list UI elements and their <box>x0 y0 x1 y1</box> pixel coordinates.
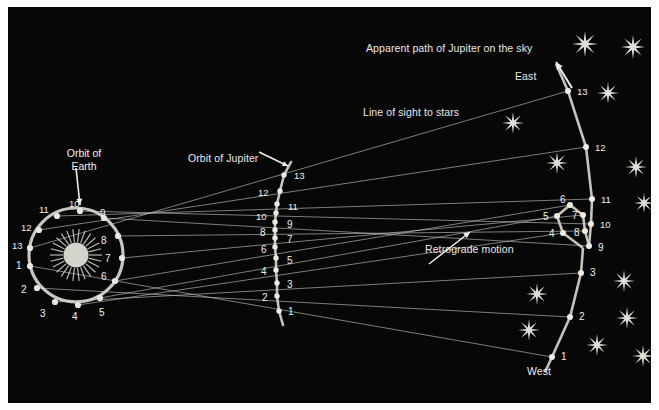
apparent-path-dot <box>580 212 586 218</box>
earth_orbit-number: 5 <box>99 308 105 318</box>
sun-ray <box>89 258 102 261</box>
jupiter-position-dot <box>277 188 282 193</box>
jupiter_orbit-number: 10 <box>256 212 267 222</box>
earth_orbit-number: 4 <box>72 312 78 322</box>
sight-line <box>37 288 570 317</box>
jupiter-position-dot <box>276 308 281 313</box>
orbit-of-earth-label: Orbit of Earth <box>45 147 123 173</box>
jupiter_orbit-number: 4 <box>261 267 267 277</box>
jupiter_orbit-number: 8 <box>260 228 266 238</box>
earth_orbit-number: 2 <box>21 285 27 295</box>
jupiter-position-dot <box>274 201 279 206</box>
earth-position-dot <box>54 213 60 219</box>
star-icon <box>586 334 608 356</box>
apparent_path-number: 6 <box>560 195 566 205</box>
apparent-path-dot <box>549 354 555 360</box>
jupiter_orbit-number: 12 <box>258 188 269 198</box>
jupiter-position-dot <box>272 219 277 224</box>
jupiter-position-dot <box>272 235 277 240</box>
jupiter-position-dot <box>274 293 279 298</box>
east-label: East <box>515 70 536 82</box>
star-icon <box>526 283 548 305</box>
star-icon <box>621 35 645 59</box>
star-icon <box>546 152 568 174</box>
star-icon <box>634 193 651 213</box>
jupiter_orbit-number: 2 <box>262 293 268 303</box>
apparent_path-number: 1 <box>561 352 567 362</box>
apparent_path-number: 10 <box>600 220 611 230</box>
apparent_path-number: 11 <box>601 195 611 205</box>
jupiter-position-dot <box>273 267 278 272</box>
apparent_path-number: 3 <box>590 268 596 278</box>
apparent-path-dot <box>567 202 573 208</box>
earth-position-dot <box>27 263 33 269</box>
sun-ray <box>89 249 102 252</box>
jupiter_orbit-number: 13 <box>294 171 305 181</box>
line-of-sight-label: Line of sight to stars <box>363 106 459 118</box>
earth-position-dot <box>97 295 103 301</box>
star-icon <box>518 319 540 341</box>
apparent_path-number: 9 <box>598 243 604 253</box>
jupiter_orbit-number: 6 <box>261 245 267 255</box>
star-icon <box>613 270 635 292</box>
earth-position-dot <box>34 285 40 291</box>
sun-ray <box>51 258 64 261</box>
apparent-path-dot <box>589 196 595 202</box>
apparent-path-dot <box>582 228 588 234</box>
earth_orbit-number: 8 <box>101 236 107 246</box>
orbit-of-earth-label-line1: Orbit of <box>45 147 123 160</box>
orbit-of-earth-label-line2: Earth <box>45 160 123 173</box>
apparent_path-number: 4 <box>549 229 555 239</box>
sun-ray <box>78 268 80 281</box>
sun-ray <box>81 267 86 279</box>
apparent-path-dot <box>583 144 589 150</box>
sight-line <box>55 273 581 302</box>
star-icon <box>502 112 524 134</box>
earth-position-dot <box>27 245 33 251</box>
star-icon <box>616 307 638 329</box>
star-icon <box>632 345 651 367</box>
apparent-path-dot <box>560 230 566 236</box>
retrograde-motion-label: Retrograde motion <box>425 243 514 255</box>
apparent-path-label: Apparent path of Jupiter on the sky <box>366 42 532 54</box>
apparent_path-number: 12 <box>595 143 606 153</box>
orbit-of-jupiter-label: Orbit of Jupiter <box>188 152 258 164</box>
jupiter_orbit-number: 7 <box>287 235 293 245</box>
jupiter_orbit-number: 1 <box>288 307 294 317</box>
sun-ray <box>78 229 80 242</box>
earth_orbit-number: 1 <box>16 261 22 271</box>
west-label: West <box>527 365 551 377</box>
sight-line <box>100 216 557 298</box>
earth-position-dot <box>75 302 81 308</box>
jupiter_orbit-number: 11 <box>288 202 298 212</box>
sun-ray <box>73 268 75 281</box>
apparent_path-number: 5 <box>543 212 549 222</box>
retrograde-motion-diagram: Orbit of Earth Orbit of Jupiter Apparent… <box>0 0 659 410</box>
earth-position-dot <box>115 233 121 239</box>
sky-background-panel: Orbit of Earth Orbit of Jupiter Apparent… <box>8 7 651 403</box>
apparent_path-number: 13 <box>577 87 588 97</box>
jupiter-position-dot <box>281 172 286 177</box>
apparent-path-dot <box>567 314 573 320</box>
jupiter-position-dot <box>274 280 279 285</box>
earth-position-dot <box>119 255 125 261</box>
earth_orbit-number: 9 <box>100 209 106 219</box>
sight-line <box>118 231 585 236</box>
earth-position-dot <box>36 227 42 233</box>
apparent_path-number: 8 <box>574 228 580 238</box>
apparent-path-dot <box>588 221 594 227</box>
earth_orbit-number: 13 <box>12 241 23 251</box>
earth_orbit-number: 6 <box>101 272 107 282</box>
sight-line <box>57 199 592 216</box>
earth_orbit-number: 12 <box>21 223 32 233</box>
apparent-path-dot <box>554 213 560 219</box>
earth_orbit-number: 3 <box>40 309 46 319</box>
star-icon <box>597 82 619 104</box>
apparent_path-number: 2 <box>579 312 585 322</box>
jupiter_orbit-number: 5 <box>287 256 293 266</box>
jupiter-position-dot <box>272 227 277 232</box>
apparent-path-dot <box>578 270 584 276</box>
sun-ray <box>51 249 64 252</box>
star-icon <box>625 156 647 178</box>
apparent-path-dot <box>586 243 592 249</box>
